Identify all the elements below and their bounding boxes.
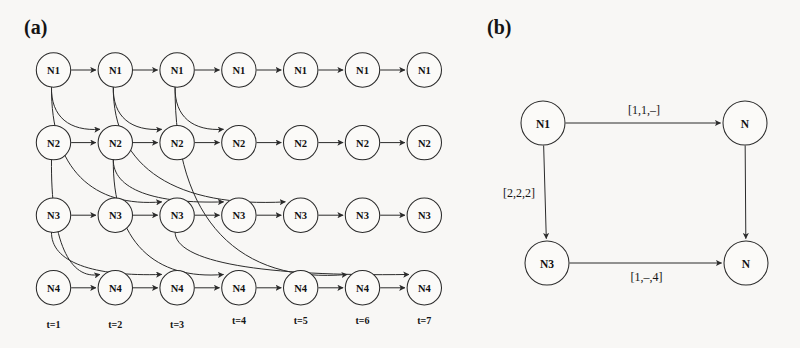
- node-b-Ntr[interactable]: N: [723, 101, 767, 145]
- node-b-N1[interactable]: N1: [521, 101, 565, 145]
- node-label-N2-t6: N2: [356, 138, 369, 149]
- panel-a-nodes: N1N1N1N1N1N1N1N2N2N2N2N2N2N2N3N3N3N3N3N3…: [36, 53, 441, 305]
- node-N3-t7[interactable]: N3: [407, 198, 441, 232]
- node-label-N3-t6: N3: [356, 210, 369, 221]
- node-N4-t3[interactable]: N4: [160, 271, 194, 305]
- time-label-6: t=6: [355, 315, 369, 326]
- curved-edge-N1-t1-to-N2-t2: [51, 86, 99, 129]
- node-N3-t2[interactable]: N3: [98, 198, 132, 232]
- curved-edge-N2-t2-to-N3-t4: [113, 159, 223, 202]
- node-label-N1-t5: N1: [294, 65, 307, 76]
- panel-b-nodes: N1NN3N: [521, 101, 768, 285]
- node-label-b-Nbr: N: [742, 258, 751, 270]
- node-label-N4-t2: N4: [109, 283, 123, 294]
- node-label-N3-t1: N3: [47, 210, 60, 221]
- node-N3-t4[interactable]: N3: [222, 198, 256, 232]
- node-label-N1-t4: N1: [232, 65, 245, 76]
- time-label-7: t=7: [417, 315, 431, 326]
- node-N3-t5[interactable]: N3: [284, 198, 318, 232]
- figure-svg: (a) (b) N1N1N1N1N1N1N1N2N2N2N2N2N2N2N3N3…: [0, 0, 800, 348]
- node-label-N2-t5: N2: [294, 138, 307, 149]
- curved-edge-N1-t3-to-N2-t4: [175, 86, 223, 129]
- node-N2-t1[interactable]: N2: [36, 125, 70, 159]
- node-label-b-N3: N3: [540, 258, 554, 270]
- panel-b-edges: [544, 123, 746, 263]
- edge-label-b-N1-to-b-Ntr: [1,1,–]: [628, 103, 660, 117]
- node-label-N3-t5: N3: [294, 210, 307, 221]
- node-N3-t3[interactable]: N3: [160, 198, 194, 232]
- node-label-N3-t3: N3: [171, 210, 184, 221]
- node-N1-t4[interactable]: N1: [222, 53, 256, 87]
- time-label-1: t=1: [46, 319, 60, 330]
- node-label-N4-t4: N4: [232, 283, 246, 294]
- panel-b-label: (b): [487, 16, 511, 39]
- panel-a-label: (a): [24, 16, 47, 39]
- curved-edge-N1-t2-to-N2-t3: [113, 86, 161, 129]
- node-label-N3-t7: N3: [418, 210, 431, 221]
- node-label-b-Ntr: N: [741, 118, 750, 130]
- node-label-N4-t5: N4: [294, 283, 308, 294]
- node-label-N4-t1: N4: [47, 283, 61, 294]
- node-label-N2-t2: N2: [109, 138, 122, 149]
- node-label-N2-t7: N2: [418, 138, 431, 149]
- node-label-b-N1: N1: [536, 118, 550, 130]
- node-N4-t5[interactable]: N4: [284, 271, 318, 305]
- node-N1-t6[interactable]: N1: [345, 53, 379, 87]
- node-label-N3-t4: N3: [232, 210, 245, 221]
- panel-a-edges: [51, 70, 408, 288]
- node-N2-t6[interactable]: N2: [345, 125, 379, 159]
- node-N1-t5[interactable]: N1: [284, 53, 318, 87]
- node-label-N1-t6: N1: [356, 65, 369, 76]
- node-label-N4-t3: N4: [171, 283, 185, 294]
- node-b-Nbr[interactable]: N: [724, 241, 768, 285]
- node-label-N4-t6: N4: [356, 283, 370, 294]
- edge-b-N1-to-b-N3: [544, 145, 547, 238]
- node-N4-t4[interactable]: N4: [222, 271, 256, 305]
- node-label-N4-t7: N4: [418, 283, 432, 294]
- node-label-N2-t3: N2: [171, 138, 184, 149]
- panel-a-time-axis: t=1t=2t=3t=4t=5t=6t=7: [46, 315, 431, 330]
- node-N2-t3[interactable]: N2: [160, 125, 194, 159]
- node-N3-t6[interactable]: N3: [345, 198, 379, 232]
- node-N4-t7[interactable]: N4: [407, 271, 441, 305]
- curved-edge-N3-t3-to-N4-t7: [175, 231, 409, 274]
- edge-b-Ntr-to-b-Nbr: [745, 145, 746, 238]
- node-N2-t2[interactable]: N2: [98, 125, 132, 159]
- curved-edge-N1-t2-to-N3-t5: [113, 86, 285, 202]
- time-label-3: t=3: [170, 319, 184, 330]
- node-b-N3[interactable]: N3: [525, 241, 569, 285]
- time-label-5: t=5: [294, 315, 308, 326]
- time-label-2: t=2: [108, 319, 122, 330]
- node-label-N1-t3: N1: [171, 65, 184, 76]
- edge-label-b-N3-to-b-Nbr: [1,–,4]: [631, 270, 663, 284]
- node-label-N1-t7: N1: [418, 65, 431, 76]
- node-label-N2-t4: N2: [232, 138, 245, 149]
- node-label-N1-t1: N1: [47, 65, 60, 76]
- node-N2-t7[interactable]: N2: [407, 125, 441, 159]
- curved-edge-N1-t3-to-N4-t6: [175, 86, 347, 275]
- time-label-4: t=4: [232, 315, 246, 326]
- figure-container: (a) (b) N1N1N1N1N1N1N1N2N2N2N2N2N2N2N3N3…: [0, 0, 800, 348]
- node-N2-t4[interactable]: N2: [222, 125, 256, 159]
- node-N1-t2[interactable]: N1: [98, 53, 132, 87]
- node-N1-t1[interactable]: N1: [36, 53, 70, 87]
- node-label-N2-t1: N2: [47, 138, 60, 149]
- node-label-N1-t2: N1: [109, 65, 122, 76]
- node-N1-t3[interactable]: N1: [160, 53, 194, 87]
- node-N4-t1[interactable]: N4: [36, 271, 70, 305]
- node-N4-t2[interactable]: N4: [98, 271, 132, 305]
- node-N3-t1[interactable]: N3: [36, 198, 70, 232]
- edge-label-b-N1-to-b-N3: [2,2,2]: [503, 186, 535, 200]
- node-N1-t7[interactable]: N1: [407, 53, 441, 87]
- node-N4-t6[interactable]: N4: [345, 271, 379, 305]
- node-N2-t5[interactable]: N2: [284, 125, 318, 159]
- node-label-N3-t2: N3: [109, 210, 122, 221]
